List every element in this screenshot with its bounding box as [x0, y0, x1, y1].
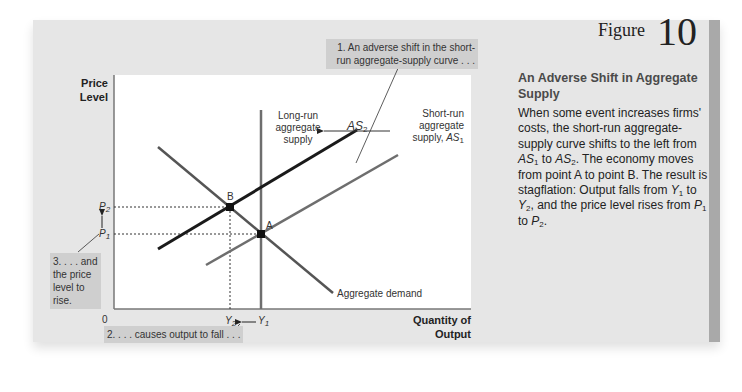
point-b-marker: [226, 203, 234, 211]
figure-word: Figure: [598, 20, 645, 41]
point-a-label: A: [266, 220, 273, 232]
origin-label: 0: [102, 314, 108, 326]
point-a-marker: [257, 230, 265, 238]
callout1-line2: run aggregate-supply curve . . .: [329, 54, 475, 67]
figure-caption: When some event increases firms' costs, …: [518, 106, 708, 229]
sras-label-line1: Short-run: [402, 108, 464, 120]
ad-label: Aggregate demand: [337, 288, 422, 300]
lras-label-line2: aggregate: [268, 122, 328, 134]
p1-tick-label: P1: [99, 228, 110, 240]
lras-label: Long-run aggregate supply: [268, 110, 328, 146]
callout-price-rise: 3. . . . and the price level to rise.: [50, 253, 101, 309]
callout3-leader: [78, 234, 99, 252]
figure-number: 10: [657, 8, 697, 55]
x-axis-title-line2: Output: [400, 327, 471, 341]
x-axis-title: Quantity of Output: [400, 313, 471, 341]
callout3-line3: level to rise.: [53, 281, 98, 307]
sras-label-line3: supply, AS1: [402, 132, 464, 144]
callout3-line1: 3. . . . and: [53, 255, 98, 268]
callout-adverse-shift: 1. An adverse shift in the short- run ag…: [326, 39, 478, 69]
y-axis-title-line2: Level: [60, 90, 108, 104]
y-axis-title-line1: Price: [60, 76, 108, 90]
callout1-leader: [356, 57, 403, 163]
y-axis-title: Price Level: [60, 76, 108, 104]
y1-tick-label: Y1: [258, 315, 269, 327]
lras-label-line1: Long-run: [268, 110, 328, 122]
callout3-line2: the price: [53, 268, 98, 281]
as2-label: AS2: [347, 120, 367, 132]
callout1-line1: 1. An adverse shift in the short-: [329, 41, 475, 54]
point-b-label: B: [227, 191, 234, 203]
callout-output-fall: 2. . . . causes output to fall . . .: [104, 326, 243, 343]
ad-curve: [158, 147, 333, 293]
sras-label-line2: aggregate: [402, 120, 464, 132]
figure-title: An Adverse Shift in Aggregate Supply: [518, 70, 703, 102]
p2-tick-label: P2: [99, 201, 110, 213]
x-axis-title-line1: Quantity of: [400, 313, 471, 327]
lras-label-line3: supply: [268, 134, 328, 146]
sras-label: Short-run aggregate supply, AS1: [402, 108, 464, 144]
